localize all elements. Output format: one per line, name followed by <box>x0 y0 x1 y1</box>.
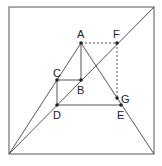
label-C: C <box>53 67 61 79</box>
segment-left-to-A <box>9 43 81 154</box>
point-B <box>79 78 83 82</box>
label-F: F <box>113 28 120 40</box>
point-G <box>115 96 119 100</box>
label-G: G <box>121 93 130 105</box>
label-D: D <box>53 109 61 121</box>
label-B: B <box>77 84 84 96</box>
geometry-diagram: A F C B G D E <box>0 0 162 166</box>
point-A <box>79 41 83 45</box>
point-D <box>55 103 59 107</box>
point-F <box>115 41 119 45</box>
label-E: E <box>117 109 124 121</box>
label-A: A <box>77 28 85 40</box>
